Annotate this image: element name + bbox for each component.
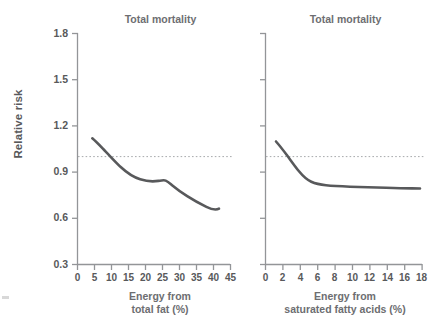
right-x-tick-label-12: 12 [360, 272, 379, 283]
y-tick-label-0.6: 0.6 [38, 211, 68, 223]
y-tick-label-1.5: 1.5 [38, 73, 68, 85]
y-tick-label-0.9: 0.9 [38, 165, 68, 177]
right-risk-curve [276, 142, 420, 189]
y-tick-label-1.2: 1.2 [38, 119, 68, 131]
panel-right [260, 33, 424, 270]
left-risk-curve [92, 138, 219, 209]
right-x-tick-label-2: 2 [273, 272, 292, 283]
page-edge-artifact [2, 296, 9, 299]
y-tick-label-0.3: 0.3 [38, 258, 68, 270]
left-x-tick-label-45: 45 [221, 272, 240, 283]
panel-left [72, 33, 232, 270]
y-tick-label-1.8: 1.8 [38, 27, 68, 39]
right-x-tick-label-8: 8 [325, 272, 344, 283]
right-x-tick-label-18: 18 [412, 272, 431, 283]
figure-canvas: Relative risk Total mortality Total mort… [0, 0, 439, 329]
